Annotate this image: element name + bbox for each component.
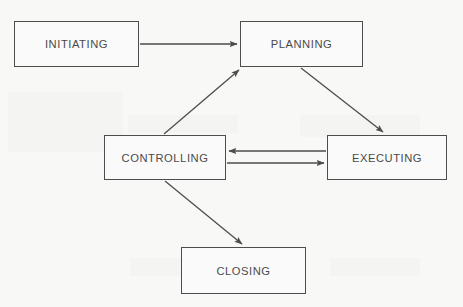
node-planning[interactable]: PLANNING	[240, 21, 363, 67]
node-controlling[interactable]: CONTROLLING	[104, 135, 226, 180]
node-initiating-label: INITIATING	[45, 38, 108, 50]
node-executing[interactable]: EXECUTING	[327, 135, 447, 180]
node-initiating[interactable]: INITIATING	[14, 21, 139, 67]
diagram-canvas: INITIATING PLANNING CONTROLLING EXECUTIN…	[0, 0, 463, 307]
scan-artifact	[330, 258, 420, 276]
edge-controlling-to-planning	[164, 70, 239, 134]
node-controlling-label: CONTROLLING	[122, 152, 209, 164]
scan-artifact	[300, 115, 420, 137]
edge-planning-to-executing	[301, 68, 383, 132]
edge-controlling-to-closing	[165, 181, 242, 244]
scan-artifact	[128, 115, 238, 133]
node-closing[interactable]: CLOSING	[181, 247, 306, 294]
node-planning-label: PLANNING	[271, 38, 333, 50]
node-closing-label: CLOSING	[216, 265, 270, 277]
node-executing-label: EXECUTING	[352, 152, 422, 164]
